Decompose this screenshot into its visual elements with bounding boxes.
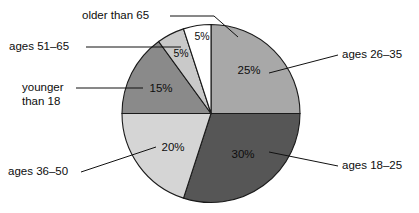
category-label-younger-line2: than 18	[22, 95, 60, 107]
value-label-older-than-65: 5%	[194, 30, 209, 42]
category-label-older-than-65: older than 65	[82, 9, 149, 23]
value-label-ages-51-65: 5%	[173, 47, 188, 59]
category-label-younger-than-18: youngerthan 18	[22, 81, 64, 108]
category-label-ages-26-35: ages 26–35	[342, 48, 402, 62]
category-label-ages-18-25: ages 18–25	[342, 159, 402, 173]
value-label-younger-than-18: 15%	[149, 82, 172, 94]
pie-slices-group	[122, 25, 300, 203]
category-label-younger-line1: younger	[22, 81, 64, 93]
value-label-ages-36-50: 20%	[161, 141, 184, 153]
value-label-ages-26-35: 25%	[237, 64, 260, 76]
value-label-ages-18-25: 30%	[231, 148, 254, 160]
pie-chart-figure: 25% 30% 20% 15% 5% 5% older than 65 ages…	[0, 0, 419, 213]
category-label-ages-51-65: ages 51–65	[9, 40, 69, 54]
category-label-ages-36-50: ages 36–50	[8, 165, 68, 179]
